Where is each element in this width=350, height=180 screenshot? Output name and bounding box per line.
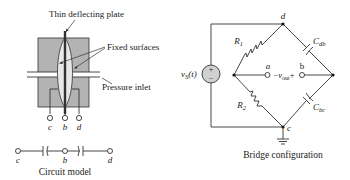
label-cdb: Cdb bbox=[313, 36, 326, 47]
label-thin-deflecting-plate: Thin deflecting plate bbox=[49, 9, 124, 19]
sensor-terminal-d: d bbox=[77, 122, 82, 132]
sensor-cross-section: c b d Thin deflecting plate Fixed surfac… bbox=[27, 9, 160, 132]
model-terminal-b: b bbox=[63, 155, 68, 165]
source-minus-sign: − bbox=[209, 74, 214, 83]
terminal-a bbox=[265, 73, 270, 78]
label-fixed-surfaces: Fixed surfaces bbox=[107, 42, 160, 52]
source-label: vS(t) bbox=[181, 69, 197, 80]
sensor-terminal-c: c bbox=[48, 122, 52, 132]
terminal-b bbox=[300, 73, 305, 78]
vout-label: −vout+ bbox=[273, 70, 294, 81]
label-pressure-inlet: Pressure inlet bbox=[102, 82, 151, 92]
label-terminal-b: b bbox=[300, 61, 305, 71]
model-terminal-c: c bbox=[16, 155, 20, 165]
label-terminal-a: a bbox=[266, 61, 271, 71]
circuit-model: c b d Circuit model bbox=[16, 146, 113, 177]
model-terminal-d: d bbox=[108, 155, 113, 165]
bridge-caption: Bridge configuration bbox=[243, 150, 323, 160]
bridge-configuration: + − vS(t) R1 R2 Cdb Cbc a −vout+ b bbox=[181, 11, 335, 160]
source-plus-sign: + bbox=[209, 65, 214, 74]
node-c-label: c bbox=[287, 123, 291, 133]
label-cbc: Cbc bbox=[313, 102, 325, 113]
circuit-model-caption: Circuit model bbox=[39, 167, 92, 177]
label-r1: R1 bbox=[233, 36, 243, 47]
arrow-plate bbox=[67, 20, 76, 31]
label-r2: R2 bbox=[236, 100, 247, 111]
resistor-r1 bbox=[245, 41, 262, 57]
sensor-terminal-b: b bbox=[63, 122, 68, 132]
thin-deflecting-plate bbox=[64, 31, 66, 114]
node-d-label: d bbox=[281, 11, 286, 21]
capacitive-pressure-sensor-figure: c b d Thin deflecting plate Fixed surfac… bbox=[0, 0, 350, 180]
capacitor-cbc-plate2 bbox=[306, 93, 313, 101]
resistor-r2 bbox=[250, 91, 262, 106]
